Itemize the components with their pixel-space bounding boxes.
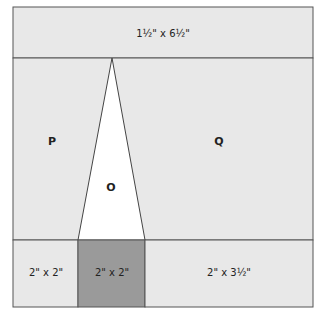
bottom-cell-2-label: 2" x 2" — [95, 267, 129, 278]
label-o: O — [106, 181, 115, 194]
bottom-cell-3-label: 2" x 3½" — [207, 267, 251, 278]
bottom-cell-1-label: 2" x 2" — [29, 267, 63, 278]
label-p: P — [48, 135, 56, 148]
label-q: Q — [214, 135, 223, 148]
top-band-label: 1½" x 6½" — [136, 28, 190, 39]
quilt-block-diagram: 1½" x 6½" P Q O 2" x 2" 2" x 2" 2" x 3½" — [0, 0, 328, 315]
middle-section — [13, 58, 313, 240]
